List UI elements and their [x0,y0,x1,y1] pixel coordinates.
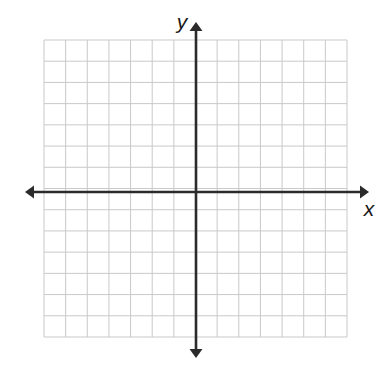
graph-canvas: x y [0,0,391,370]
coordinate-plane: x y [0,0,391,370]
y-axis-label: y [175,10,189,33]
x-axis-label: x [363,197,376,220]
